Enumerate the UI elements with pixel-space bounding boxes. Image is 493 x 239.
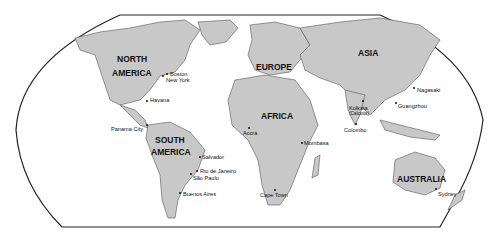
continent-label-asia: ASIA <box>358 48 378 58</box>
city-label: Buenos Aires <box>183 191 216 197</box>
city-rio-de-janeiro: Rio de Janeiro <box>196 168 236 174</box>
city-sao-paulo: São Paulo <box>190 173 219 181</box>
city-label: Nagasaki <box>417 87 440 93</box>
continent-label-north-america: NORTH <box>117 54 147 64</box>
city-label: Guangzhou <box>398 103 427 109</box>
city-label: New York <box>166 77 190 83</box>
city-label: Colombo <box>344 127 366 133</box>
city-label: Cape Town <box>260 192 288 198</box>
city-dot <box>435 188 437 190</box>
city-dot <box>362 100 364 102</box>
city-guangzhou: Guangzhou <box>395 102 427 109</box>
city-dot <box>274 189 276 191</box>
city-label: São Paulo <box>193 175 219 181</box>
city-new-york: New York <box>162 75 190 83</box>
continent-label-australia: AUSTRALIA <box>397 174 446 184</box>
continent-label-north-america-2: AMERICA <box>112 68 152 78</box>
city-dot <box>248 127 250 129</box>
city-buenos-aires: Buenos Aires <box>179 191 216 197</box>
city-label: Havana <box>150 97 170 103</box>
city-label: Rio de Janeiro <box>200 168 236 174</box>
city-dot <box>413 87 415 89</box>
continent-label-europe: EUROPE <box>256 62 292 72</box>
city-dot <box>190 173 192 175</box>
city-label: Accra <box>243 130 258 136</box>
city-havana: Havana <box>146 97 170 103</box>
city-dot <box>146 124 148 126</box>
continent-label-africa: AFRICA <box>261 111 293 121</box>
city-panama-city: Panama City <box>111 124 148 132</box>
city-dot <box>162 75 164 77</box>
city-label: Salvador <box>202 154 224 160</box>
world-map: NORTH AMERICA SOUTH AMERICA EUROPE AFRIC… <box>0 0 493 239</box>
city-dot <box>196 170 198 172</box>
city-dot <box>166 73 168 75</box>
city-label: Panama City <box>111 126 143 132</box>
city-dot <box>395 102 397 104</box>
city-sublabel: (Calcutta) <box>349 111 369 116</box>
city-dot <box>301 142 303 144</box>
city-label: Sydney <box>438 191 457 197</box>
city-dot <box>179 192 181 194</box>
continent-label-south-america-2: AMERICA <box>151 147 191 157</box>
city-nagasaki: Nagasaki <box>413 87 440 93</box>
continent-label-south-america: SOUTH <box>155 135 185 145</box>
city-dot <box>146 100 148 102</box>
city-dot <box>199 156 201 158</box>
city-salvador: Salvador <box>199 154 224 160</box>
city-mombasa: Mombasa <box>301 140 329 146</box>
city-dot <box>355 123 357 125</box>
city-label: Mombasa <box>304 140 329 146</box>
